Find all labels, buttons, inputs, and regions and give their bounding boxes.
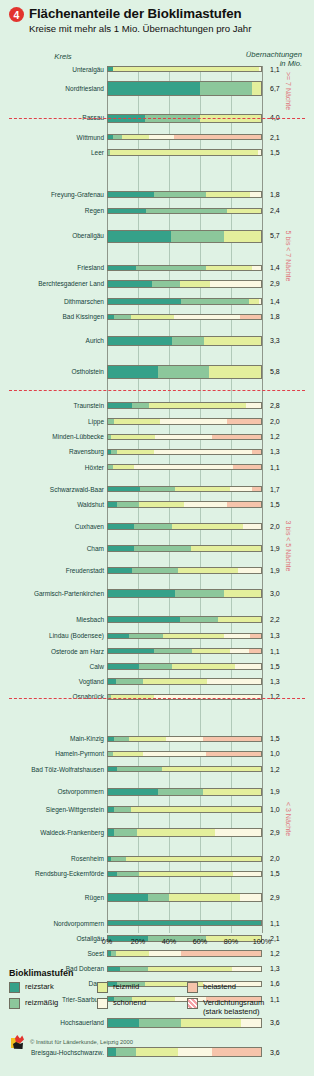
bar-segment-belastend [212, 1048, 261, 1056]
legend-item: Verdichtungsraum(stark belastend) [187, 998, 305, 1016]
stacked-bar [107, 314, 262, 320]
x-axis-tick-labels: 0%20%40%60%80%100% [107, 937, 262, 949]
bar-segment-schonend [259, 299, 261, 303]
stacked-bar [107, 486, 262, 492]
stacked-bar [107, 523, 262, 529]
row-value: 3,6 [270, 1049, 280, 1056]
row-label: Waldshut [77, 501, 104, 508]
bar-segment-reizmild [117, 450, 154, 454]
legend-title: Bioklimastufen [9, 968, 305, 978]
group-label-vertical: >= 7 Nächte [285, 72, 292, 110]
stacked-bar [107, 208, 262, 214]
row-value: 1,9 [270, 788, 280, 795]
row-value: 1,3 [270, 678, 280, 685]
row-label: Hochsauerland [60, 1019, 104, 1026]
row-label: Waldeck-Frankenberg [40, 829, 104, 836]
bar-segment-reizmild [116, 951, 150, 955]
bar-segment-reizstark [108, 1048, 116, 1056]
bar-segment-reizmild [249, 299, 260, 303]
stacked-bar [107, 464, 262, 470]
bar-segment-reizmäßig [117, 502, 138, 506]
row-label: Bad Tölz-Wolfratshausen [31, 766, 104, 773]
bar-segment-reizmäßig [158, 366, 208, 378]
stacked-bar [107, 616, 262, 623]
stacked-bar [107, 893, 262, 902]
bar-segment-reizmäßig [116, 679, 144, 683]
bar-segment-reizstark [108, 366, 158, 378]
bar-segment-reizmild [122, 135, 150, 139]
row-value: 1,0 [270, 750, 280, 757]
bar-segment-reizmild [110, 150, 258, 154]
infographic-panel: 4 Flächenanteile der Bioklimastufen Krei… [0, 0, 314, 1076]
axis-tick-60: 60% [193, 937, 207, 946]
row-value: 1,1 [270, 920, 280, 927]
bar-segment-reizmild [175, 487, 230, 491]
axis-tick-20: 20% [131, 937, 145, 946]
bar-segment-schonend [250, 192, 261, 197]
bar-segment-reizstark [108, 281, 152, 287]
bar-segment-schonend [160, 419, 227, 423]
bar-segment-belastend [240, 315, 261, 319]
group-label-vertical: 5 bis < 7 Nächte [285, 231, 292, 282]
row-value: 1,2 [270, 433, 280, 440]
row-value: 1,5 [270, 735, 280, 742]
bar-segment-reizstark [108, 634, 129, 638]
bar-segment-reizmäßig [146, 209, 227, 213]
bar-segment-reizstark [108, 649, 154, 653]
bar-segment-reizstark [108, 82, 200, 95]
row-value: 1,3 [270, 632, 280, 639]
group-label-vertical: < 3 Nächte [285, 802, 292, 836]
bar-segment-reizmäßig [181, 299, 248, 303]
row-label: Rendsburg-Eckernförde [35, 870, 104, 877]
bar-segment-reizmild [131, 807, 261, 811]
row-value: 1,5 [270, 149, 280, 156]
stacked-bar [107, 633, 262, 639]
bar-segment-reizstark [108, 299, 181, 303]
bar-segment-belastend [249, 649, 261, 653]
bar-segment-schonend [215, 829, 261, 836]
row-label: Soest [87, 950, 104, 957]
bar-segment-reizmild [114, 419, 160, 423]
row-label: Rügen [85, 894, 104, 901]
row-value: 2,9 [270, 280, 280, 287]
stacked-bar [107, 736, 262, 742]
bar-segment-reizmild [227, 209, 261, 213]
row-label: Schwarzwald-Baar [50, 486, 104, 493]
bar-segment-reizmäßig [154, 649, 192, 653]
bar-segment-reizstark [108, 921, 261, 925]
row-value: 3,3 [270, 337, 280, 344]
stacked-bar [107, 66, 262, 72]
row-value: 1,4 [270, 298, 280, 305]
bar-segment-reizmäßig [200, 82, 252, 95]
bar-segment-reizstark [108, 403, 132, 408]
bar-segment-reizmild [111, 435, 155, 439]
row-value: 1,1 [270, 66, 280, 73]
row-value: 1,2 [270, 950, 280, 957]
bar-segment-reizmild [113, 67, 260, 71]
stacked-bar [107, 788, 262, 796]
stacked-bar [107, 280, 262, 288]
row-label: Freyung-Grafenau [51, 191, 104, 198]
stacked-bar [107, 418, 262, 424]
row-label: Unteralgäu [72, 66, 104, 73]
legend: Bioklimastufen reizstarkreizmäßigreizmil… [9, 968, 305, 1016]
bar-segment-schonend [241, 1019, 261, 1027]
bar-segment-schonend [166, 737, 203, 741]
stacked-bar [107, 336, 262, 346]
bar-segment-reizmäßig [114, 829, 137, 836]
bar-segment-schonend [258, 150, 261, 154]
bar-segment-reizstark [108, 664, 139, 668]
bar-segment-reizstark [108, 546, 134, 550]
page-title: Flächenanteile der Bioklimastufen [29, 6, 241, 21]
bar-segment-reizmild [126, 857, 261, 861]
bar-segment-reizstark [108, 231, 171, 242]
row-value: 1,9 [270, 567, 280, 574]
bar-segment-schonend [238, 568, 261, 572]
row-label: Oberallgäu [72, 232, 104, 239]
stacked-bar [107, 871, 262, 877]
bar-segment-reizmild [224, 590, 261, 597]
row-label: Hameln-Pyrmont [55, 750, 104, 757]
bar-segment-reizstark [108, 789, 158, 795]
bar-segment-reizmild [206, 192, 250, 197]
bar-segment-reizmild [162, 767, 261, 771]
